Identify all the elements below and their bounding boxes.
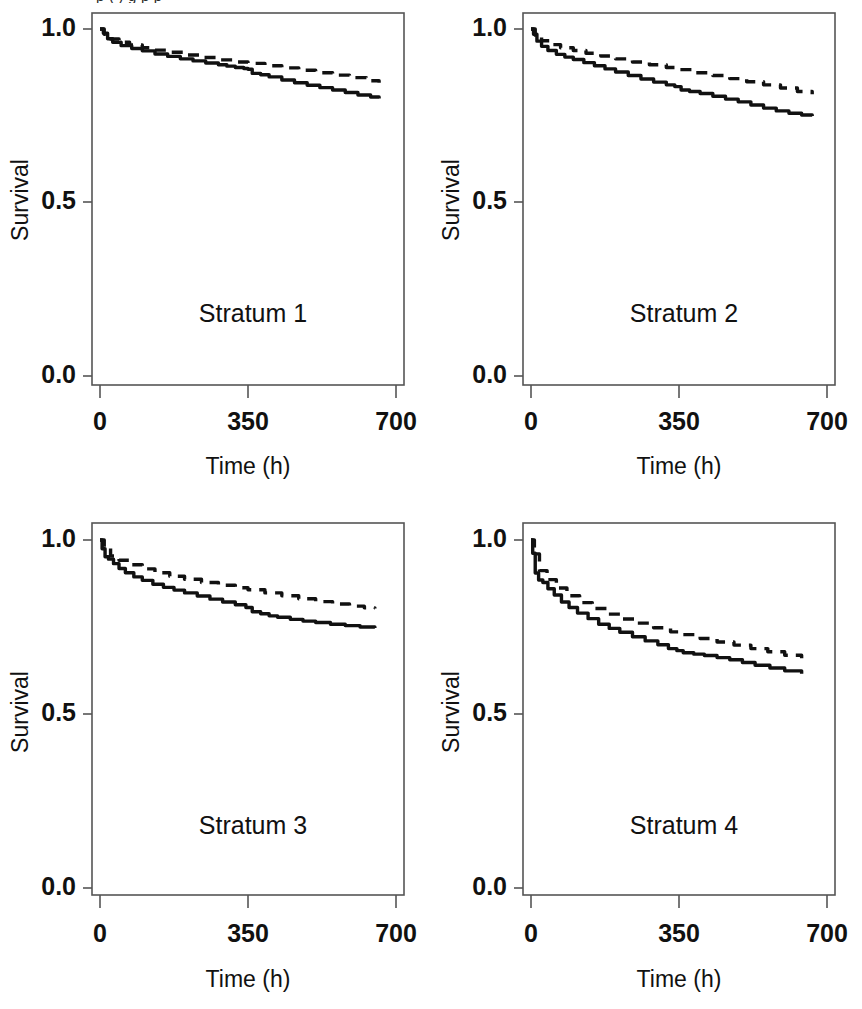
panel-1-curves — [100, 29, 379, 98]
panel-title: Stratum 4 — [630, 811, 738, 839]
series-observed — [100, 29, 379, 98]
panel-stratum-2: 1.0 0.5 0.0 0 350 700 Survival Time (h) … — [431, 0, 862, 505]
x-axis-label: Time (h) — [206, 453, 291, 479]
xtick-label-0: 0 — [93, 407, 107, 435]
x-axis-label: Time (h) — [637, 453, 722, 479]
panel-title: Stratum 3 — [199, 811, 307, 839]
panel-3-curves — [100, 540, 375, 628]
xtick-label-350: 350 — [227, 407, 269, 435]
xtick-label-350: 350 — [658, 407, 700, 435]
ytick-label-0.0: 0.0 — [41, 360, 76, 388]
panel-stratum-3: 1.0 0.5 0.0 0 350 700 Survival Time (h) … — [0, 505, 431, 1009]
series-predicted — [100, 29, 379, 83]
xtick-label-350: 350 — [227, 919, 269, 947]
series-observed — [531, 540, 802, 674]
series-observed — [100, 540, 375, 628]
y-axis-label: Survival — [7, 159, 33, 241]
panel-1-svg: 1.0 0.5 0.0 0 350 700 Survival Time (h) … — [0, 0, 431, 505]
panel-stratum-1: 1.0 0.5 0.0 0 350 700 Survival Time (h) … — [0, 0, 431, 505]
xtick-label-0: 0 — [93, 919, 107, 947]
plot-frame — [523, 13, 835, 385]
panel-4-svg: 1.0 0.5 0.0 0 350 700 Survival Time (h) … — [431, 505, 862, 1009]
panel-3-svg: 1.0 0.5 0.0 0 350 700 Survival Time (h) … — [0, 505, 431, 1009]
x-axis-label: Time (h) — [637, 966, 722, 992]
panel-2-axes: 1.0 0.5 0.0 0 350 700 Survival Time (h) … — [438, 13, 848, 479]
series-observed — [531, 29, 812, 116]
ytick-label-0.5: 0.5 — [41, 698, 76, 726]
ytick-label-0.0: 0.0 — [41, 872, 76, 900]
ytick-label-0.0: 0.0 — [472, 360, 507, 388]
ytick-label-1.0: 1.0 — [472, 524, 507, 552]
plot-frame — [92, 523, 404, 895]
y-axis-label: Survival — [438, 159, 464, 241]
xtick-label-0: 0 — [524, 919, 538, 947]
panel-2-svg: 1.0 0.5 0.0 0 350 700 Survival Time (h) … — [431, 0, 862, 505]
ytick-label-1.0: 1.0 — [41, 524, 76, 552]
plot-frame — [523, 523, 835, 895]
panel-1-axes: 1.0 0.5 0.0 0 350 700 Survival Time (h) … — [7, 13, 417, 479]
series-predicted — [531, 540, 802, 658]
xtick-label-350: 350 — [658, 919, 700, 947]
series-predicted — [100, 540, 375, 609]
xtick-label-700: 700 — [375, 919, 417, 947]
xtick-label-700: 700 — [806, 919, 848, 947]
y-axis-label: Survival — [438, 671, 464, 753]
panel-3-axes: 1.0 0.5 0.0 0 350 700 Survival Time (h) … — [7, 523, 417, 992]
xtick-label-700: 700 — [806, 407, 848, 435]
y-axis-label: Survival — [7, 671, 33, 753]
panel-4-curves — [531, 540, 802, 674]
ytick-label-0.5: 0.5 — [472, 186, 507, 214]
ytick-label-1.0: 1.0 — [41, 13, 76, 41]
x-axis-label: Time (h) — [206, 966, 291, 992]
panel-stratum-4: 1.0 0.5 0.0 0 350 700 Survival Time (h) … — [431, 505, 862, 1009]
panel-4-axes: 1.0 0.5 0.0 0 350 700 Survival Time (h) … — [438, 523, 848, 992]
panel-2-curves — [531, 29, 812, 116]
panel-title: Stratum 1 — [199, 299, 307, 327]
ytick-label-1.0: 1.0 — [472, 13, 507, 41]
ytick-label-0.0: 0.0 — [472, 872, 507, 900]
panel-title: Stratum 2 — [630, 299, 738, 327]
ytick-label-0.5: 0.5 — [472, 698, 507, 726]
ytick-label-0.5: 0.5 — [41, 186, 76, 214]
xtick-label-700: 700 — [375, 407, 417, 435]
survival-figure: p ( ) g p p 1.0 0.5 0.0 0 350 — [0, 0, 862, 1009]
xtick-label-0: 0 — [524, 407, 538, 435]
